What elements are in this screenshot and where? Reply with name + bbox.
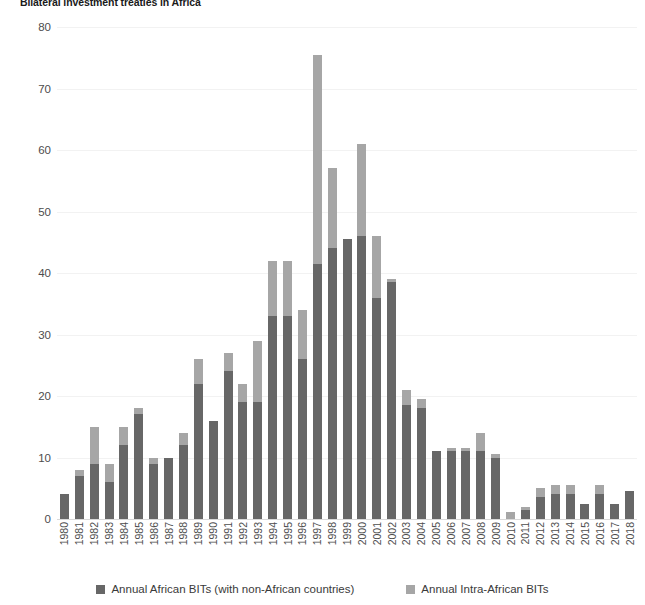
bar-segment-1988-series1 [179,433,188,445]
bar-segment-1981-series1 [75,470,84,476]
bar-segment-1995-series0 [283,316,292,519]
x-axis-tick-1995: 1995 [282,522,294,545]
bar-1998[interactable] [328,27,337,519]
x-axis-tick-1983: 1983 [103,522,115,545]
x-axis-tick-2018: 2018 [624,522,636,545]
x-axis-tick-2004: 2004 [415,522,427,545]
x-axis-tick-1997: 1997 [311,522,323,545]
bar-1991[interactable] [224,27,233,519]
bar-1981[interactable] [75,27,84,519]
x-axis-tick-1998: 1998 [326,522,338,545]
bar-segment-2007-series0 [461,451,470,519]
bar-segment-1995-series1 [283,261,292,316]
x-axis-tick-2003: 2003 [400,522,412,545]
bar-segment-2000-series0 [357,236,366,519]
bar-segment-1991-series1 [224,353,233,371]
x-axis-tick-1991: 1991 [222,522,234,545]
bar-1984[interactable] [119,27,128,519]
x-axis-tick-1992: 1992 [237,522,249,545]
legend-swatch-african-bits [96,585,105,594]
x-axis-tick-1982: 1982 [88,522,100,545]
x-axis-tick-2000: 2000 [356,522,368,545]
x-axis-tick-1988: 1988 [177,522,189,545]
bar-2005[interactable] [432,27,441,519]
bar-1993[interactable] [253,27,262,519]
legend-label-0: Annual African BITs (with non-African co… [111,583,354,595]
bar-2011[interactable] [521,27,530,519]
bar-1987[interactable] [164,27,173,519]
bar-segment-1986-series1 [149,458,158,464]
bar-segment-1986-series0 [149,464,158,519]
bar-segment-1989-series1 [194,359,203,384]
y-axis-tick-70: 70 [5,83,51,95]
bar-1982[interactable] [90,27,99,519]
bar-1997[interactable] [313,27,322,519]
bar-segment-1984-series0 [119,445,128,519]
bar-2003[interactable] [402,27,411,519]
bar-2012[interactable] [536,27,545,519]
bar-2014[interactable] [566,27,575,519]
bar-segment-1993-series1 [253,341,262,403]
bar-2013[interactable] [551,27,560,519]
bar-2006[interactable] [447,27,456,519]
bar-1994[interactable] [268,27,277,519]
x-axis-tick-2014: 2014 [564,522,576,545]
x-axis-tick-2015: 2015 [579,522,591,545]
bar-segment-1996-series1 [298,310,307,359]
x-axis: 1980198119821983198419851986198719881989… [57,522,637,568]
bar-segment-1997-series1 [313,55,322,264]
bar-1999[interactable] [343,27,352,519]
bar-segment-2013-series0 [551,494,560,519]
bar-segment-2016-series0 [595,494,604,519]
x-axis-tick-2005: 2005 [430,522,442,545]
bar-segment-1989-series0 [194,384,203,519]
bar-1990[interactable] [209,27,218,519]
bar-segment-2012-series0 [536,497,545,519]
legend-item-1[interactable]: Annual Intra-African BITs [406,583,548,595]
bar-1996[interactable] [298,27,307,519]
bar-2016[interactable] [595,27,604,519]
x-axis-tick-1984: 1984 [118,522,130,545]
bar-segment-2007-series1 [461,448,470,451]
y-axis-tick-30: 30 [5,329,51,341]
x-axis-tick-2016: 2016 [594,522,606,545]
bar-segment-1992-series0 [238,402,247,519]
legend-swatch-intra-african-bits [406,585,415,594]
bar-2008[interactable] [476,27,485,519]
bar-1995[interactable] [283,27,292,519]
bar-2000[interactable] [357,27,366,519]
bar-segment-2003-series0 [402,405,411,519]
bar-2017[interactable] [610,27,619,519]
bar-segment-1987-series0 [164,458,173,520]
x-axis-tick-1989: 1989 [192,522,204,545]
bar-1983[interactable] [105,27,114,519]
bar-segment-1994-series1 [268,261,277,316]
x-axis-tick-1994: 1994 [267,522,279,545]
bar-1988[interactable] [179,27,188,519]
bar-1980[interactable] [60,27,69,519]
bar-2009[interactable] [491,27,500,519]
bar-1992[interactable] [238,27,247,519]
x-axis-tick-2006: 2006 [445,522,457,545]
legend-item-0[interactable]: Annual African BITs (with non-African co… [96,583,354,595]
bar-2010[interactable] [506,27,515,519]
bar-segment-2005-series0 [432,451,441,519]
x-axis-tick-2001: 2001 [371,522,383,545]
bar-segment-2001-series0 [372,298,381,519]
bar-segment-1990-series0 [209,421,218,519]
bar-1986[interactable] [149,27,158,519]
bar-segment-1983-series0 [105,482,114,519]
bar-segment-1999-series0 [343,239,352,519]
bar-2001[interactable] [372,27,381,519]
x-axis-tick-1986: 1986 [148,522,160,545]
bar-2002[interactable] [387,27,396,519]
bar-2004[interactable] [417,27,426,519]
bar-2007[interactable] [461,27,470,519]
bar-2018[interactable] [625,27,634,519]
bar-segment-1993-series0 [253,402,262,519]
x-axis-tick-2010: 2010 [505,522,517,545]
chart-legend: Annual African BITs (with non-African co… [0,578,645,605]
bar-1989[interactable] [194,27,203,519]
bar-2015[interactable] [580,27,589,519]
bar-1985[interactable] [134,27,143,519]
